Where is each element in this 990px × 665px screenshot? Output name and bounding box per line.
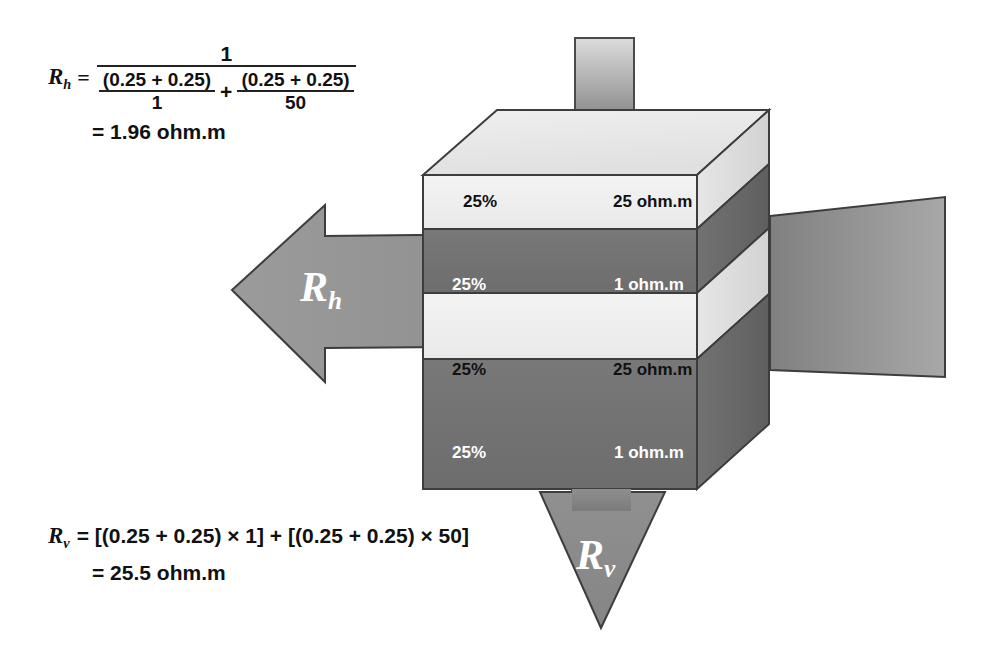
rh-main-numerator: 1 bbox=[216, 42, 236, 65]
rv-expression: = [(0.25 + 0.25) × 1] + [(0.25 + 0.25) ×… bbox=[77, 525, 469, 546]
diagram-canvas: Rh = 1 (0.25 + 0.25) 1 + (0.25 + 0.25) 5… bbox=[0, 0, 990, 665]
rh-arrow-label: Rh bbox=[300, 266, 342, 313]
rh-term1-denominator: 1 bbox=[148, 92, 167, 113]
rh-term2-fraction: (0.25 + 0.25) 50 bbox=[237, 69, 353, 113]
horizontal-flow-back-panel bbox=[770, 197, 945, 377]
vertical-flow-stem-bottom bbox=[572, 489, 631, 511]
rh-result: = 1.96 ohm.m bbox=[92, 121, 356, 142]
rh-equation: Rh = 1 (0.25 + 0.25) 1 + (0.25 + 0.25) 5… bbox=[48, 42, 356, 142]
layer-3-fraction-label: 25% bbox=[452, 360, 486, 380]
rh-term1-fraction: (0.25 + 0.25) 1 bbox=[99, 69, 215, 113]
rh-term1-numerator: (0.25 + 0.25) bbox=[99, 69, 215, 90]
layer-4-resistivity-label: 1 ohm.m bbox=[614, 443, 684, 463]
rh-equals-sign: = bbox=[77, 67, 90, 89]
rv-arrow-label: Rv bbox=[576, 534, 615, 581]
layer-2-fraction-label: 25% bbox=[452, 275, 486, 295]
layer-4-fraction-label: 25% bbox=[452, 443, 486, 463]
block-front-face-layer-3 bbox=[423, 293, 697, 359]
rh-main-fraction: 1 (0.25 + 0.25) 1 + (0.25 + 0.25) 50 bbox=[97, 42, 356, 113]
layer-2-resistivity-label: 1 ohm.m bbox=[614, 275, 684, 295]
layered-formation-block bbox=[423, 110, 769, 489]
rv-result: = 25.5 ohm.m bbox=[92, 562, 469, 583]
rv-equation: Rv = [(0.25 + 0.25) × 1] + [(0.25 + 0.25… bbox=[48, 524, 469, 583]
layer-3-resistivity-label: 25 ohm.m bbox=[613, 360, 692, 380]
rh-term2-denominator: 50 bbox=[281, 92, 310, 113]
rv-equation-lhs: Rv bbox=[48, 524, 70, 550]
rh-main-denominator: (0.25 + 0.25) 1 + (0.25 + 0.25) 50 bbox=[97, 67, 356, 113]
rh-equation-lhs: Rh bbox=[48, 65, 71, 91]
rh-plus-sign: + bbox=[215, 81, 237, 102]
layer-1-fraction-label: 25% bbox=[463, 192, 497, 212]
rh-term2-numerator: (0.25 + 0.25) bbox=[237, 69, 353, 90]
layer-1-resistivity-label: 25 ohm.m bbox=[613, 192, 692, 212]
